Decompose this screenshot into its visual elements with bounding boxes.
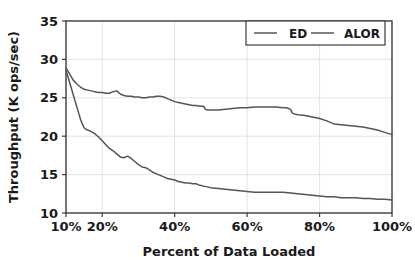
x-tick-label: 60% bbox=[232, 219, 263, 234]
throughput-line-chart: 101520253035 10%20%40%60%80%100% Through… bbox=[0, 0, 415, 263]
chart-figure: 101520253035 10%20%40%60%80%100% Through… bbox=[0, 0, 415, 263]
x-tick-label: 80% bbox=[304, 219, 335, 234]
chart-legend: ED ALOR bbox=[246, 21, 385, 45]
x-tick-label: 100% bbox=[372, 219, 412, 234]
y-tick-label: 20 bbox=[40, 129, 58, 144]
x-tick-label: 40% bbox=[159, 219, 190, 234]
y-tick-label: 25 bbox=[40, 90, 58, 105]
y-tick-label: 35 bbox=[40, 14, 58, 29]
x-tick-label: 10% bbox=[50, 219, 81, 234]
legend-label-alor: ALOR bbox=[344, 27, 380, 41]
y-tick-label: 15 bbox=[40, 167, 58, 182]
legend-label-ed: ED bbox=[289, 27, 307, 41]
y-tick-label: 30 bbox=[40, 52, 58, 67]
y-axis-title: Throughput (K ops/sec) bbox=[6, 31, 21, 203]
x-axis-title: Percent of Data Loaded bbox=[143, 244, 316, 259]
x-tick-label: 20% bbox=[87, 219, 118, 234]
